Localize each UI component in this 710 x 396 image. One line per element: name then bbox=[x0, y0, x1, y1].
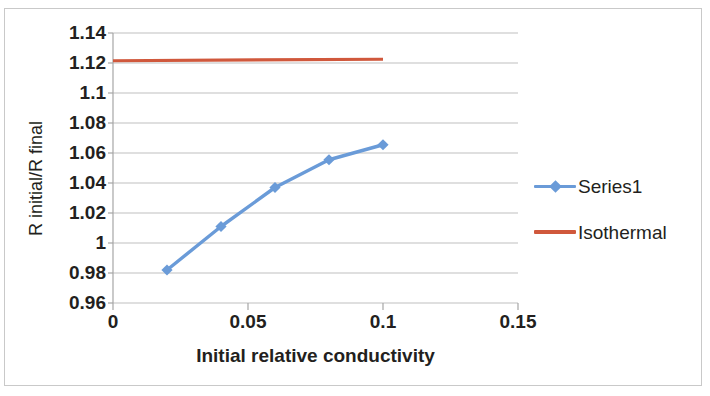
x-axis-tick-label: 0.15 bbox=[500, 312, 537, 331]
y-axis-title: R initial/R final bbox=[26, 69, 47, 289]
legend-marker-isothermal bbox=[534, 223, 576, 241]
chart-screenshot: 0.960.9811.021.041.061.081.11.121.14 00.… bbox=[0, 0, 710, 396]
x-axis-tick-label: 0.05 bbox=[230, 312, 267, 331]
legend-label-isothermal: Isothermal bbox=[578, 223, 667, 242]
legend-label-series1: Series1 bbox=[578, 177, 642, 196]
x-axis-tick-label: 0.1 bbox=[370, 312, 396, 331]
legend-marker-series1 bbox=[534, 177, 576, 195]
x-axis-tick-label: 0 bbox=[108, 312, 119, 331]
chart-legend: Series1 Isothermal bbox=[534, 163, 704, 255]
x-axis-title: Initial relative conductivity bbox=[113, 345, 518, 367]
legend-item-series1[interactable]: Series1 bbox=[534, 163, 704, 209]
legend-item-isothermal[interactable]: Isothermal bbox=[534, 209, 704, 255]
